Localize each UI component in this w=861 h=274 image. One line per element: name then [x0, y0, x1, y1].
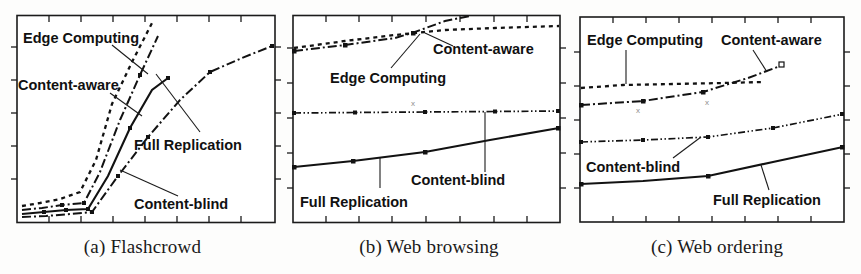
stray-speck-c-2: x	[705, 98, 709, 107]
caption-panel-b: (b) Web browsing	[285, 236, 573, 258]
panel-a-flashcrowd: Edge Computing Content-aware Full Replic…	[0, 0, 285, 274]
stray-speck-c-1: x	[636, 106, 640, 115]
label-content-blind-a: Content-blind	[134, 196, 228, 212]
caption-panel-c: (c) Web ordering	[573, 236, 861, 258]
left-ticks-c	[574, 52, 580, 188]
figure-three-panel-line-charts: Edge Computing Content-aware Full Replic…	[0, 0, 861, 274]
stray-speck-b: x	[411, 99, 415, 108]
label-content-blind-c: Content-blind	[586, 159, 680, 175]
right-ticks-b	[560, 48, 566, 188]
label-content-aware-b: Content-aware	[433, 41, 534, 57]
label-edge-computing-a: Edge Computing	[23, 30, 139, 46]
panel-a-plot: Edge Computing Content-aware Full Replic…	[0, 0, 285, 232]
panel-c-web-ordering: x x Edge Computing Content-aware Content…	[573, 0, 861, 274]
panel-b-web-browsing: x Content-aware Edge Computing Content-b…	[285, 0, 573, 274]
label-content-aware-c: Content-aware	[721, 32, 822, 48]
plot-frame-a	[17, 16, 275, 223]
left-ticks-a	[11, 47, 17, 179]
caption-panel-a: (a) Flashcrowd	[0, 236, 285, 258]
right-ticks-a	[275, 47, 281, 179]
label-full-replication-a: Full Replication	[134, 137, 242, 153]
label-content-aware-a: Content-aware	[18, 77, 119, 93]
panel-b-plot: x Content-aware Edge Computing Content-b…	[285, 0, 573, 232]
right-ticks-c	[844, 52, 850, 188]
label-full-replication-b: Full Replication	[300, 194, 408, 210]
label-edge-computing-c: Edge Computing	[587, 32, 703, 48]
panel-c-plot: x x Edge Computing Content-aware Content…	[573, 0, 861, 232]
label-edge-computing-b: Edge Computing	[330, 70, 446, 86]
label-content-blind-b: Content-blind	[411, 172, 505, 188]
label-full-replication-c: Full Replication	[713, 192, 821, 208]
